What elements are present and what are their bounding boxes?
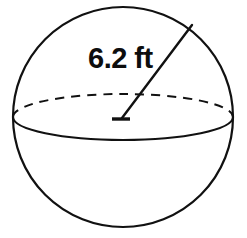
equator-back-arc-dashed <box>13 94 233 117</box>
sphere-diagram-canvas: 6.2 ft <box>0 0 247 238</box>
sphere-figure: 6.2 ft <box>0 0 247 238</box>
radius-dimension-label: 6.2 ft <box>88 42 154 74</box>
